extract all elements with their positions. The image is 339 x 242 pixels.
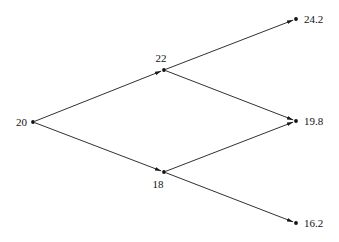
tree-edges [35,20,293,222]
binomial-tree-diagram: 20221824.219.816.2 [0,0,339,242]
node-label-ud: 19.8 [304,115,324,127]
node-dot-dd [294,221,298,225]
node-label-dd: 16.2 [304,217,323,229]
node-label-uu: 24.2 [304,13,323,25]
node-dot-ud [294,119,298,123]
edge-n0-u [35,71,161,121]
node-dot-uu [294,17,298,21]
edge-d-dd [166,173,293,222]
node-dot-d [162,170,166,174]
edge-u-uu [166,20,293,69]
tree-nodes [31,17,298,225]
node-label-d: 18 [153,178,165,190]
node-label-u: 22 [156,52,167,64]
node-label-n0: 20 [16,116,28,128]
edge-n0-d [35,123,161,171]
edge-d-ud [166,122,293,171]
node-dot-u [162,68,166,72]
node-dot-n0 [31,120,35,124]
tree-labels: 20221824.219.816.2 [16,13,324,229]
edge-u-ud [166,71,293,120]
